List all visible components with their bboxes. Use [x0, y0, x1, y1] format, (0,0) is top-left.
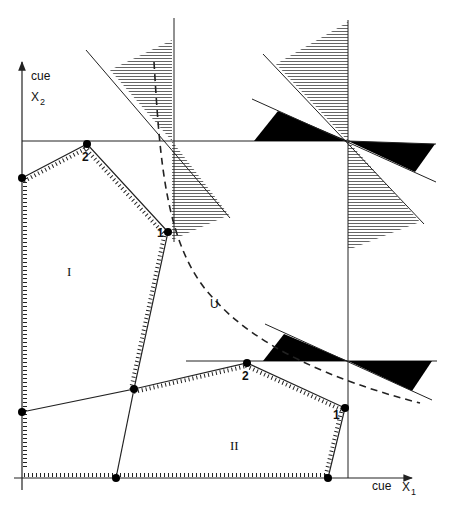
- upper-vertex-1-label: 1: [157, 226, 164, 240]
- region-ii-boundary: [24, 363, 345, 478]
- lower-vertex-2-label: 2: [242, 369, 249, 383]
- vertex-upper-1: [164, 228, 172, 236]
- vertex-lower-1: [341, 404, 349, 412]
- y-axis-x-subscript: 2: [40, 97, 45, 107]
- lower-right-solid-cone: [186, 324, 437, 400]
- vertex-left-lower-y: [18, 408, 26, 416]
- vertex-upper-2: [83, 140, 91, 148]
- y-axis-x-label: X: [31, 90, 39, 104]
- diagram-canvas: cue X 2 cue X 1 I II U 2 1 2 1: [0, 0, 455, 510]
- vertex-bottom-left-x: [112, 474, 120, 482]
- lower-vertex-1-label: 1: [333, 408, 340, 422]
- y-axis-cue-label: cue: [31, 69, 51, 83]
- region-u-label: U: [210, 297, 219, 311]
- region-i-label: I: [67, 264, 71, 279]
- region-ii-label: II: [230, 438, 239, 453]
- upper-left-hatched-cone: [86, 18, 230, 242]
- vertex-upper-y: [18, 174, 26, 182]
- x-axis-cue-label: cue: [372, 479, 392, 493]
- vertex-middle: [130, 385, 138, 393]
- vertex-bottom-right-x: [324, 474, 332, 482]
- region-i-boundary: [22, 144, 168, 470]
- x-axis-x-label: X: [402, 480, 410, 494]
- axes: [14, 62, 412, 490]
- upper-vertex-2-label: 2: [82, 150, 89, 164]
- x-axis-x-subscript: 1: [411, 487, 416, 497]
- vertex-lower-2: [243, 359, 251, 367]
